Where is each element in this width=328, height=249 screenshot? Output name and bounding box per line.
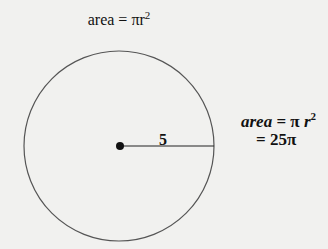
center-point xyxy=(116,142,124,150)
exponent: 2 xyxy=(311,110,317,122)
area-calculation: area = π r2 = 25π xyxy=(241,107,316,149)
equals-pi: = π xyxy=(272,112,304,131)
area-result-line: = 25π xyxy=(241,131,316,149)
r-var: r xyxy=(304,112,311,131)
radius-label: 5 xyxy=(159,131,167,149)
area-formula-line: area = π r2 xyxy=(241,107,316,131)
area-var: area xyxy=(241,112,272,131)
